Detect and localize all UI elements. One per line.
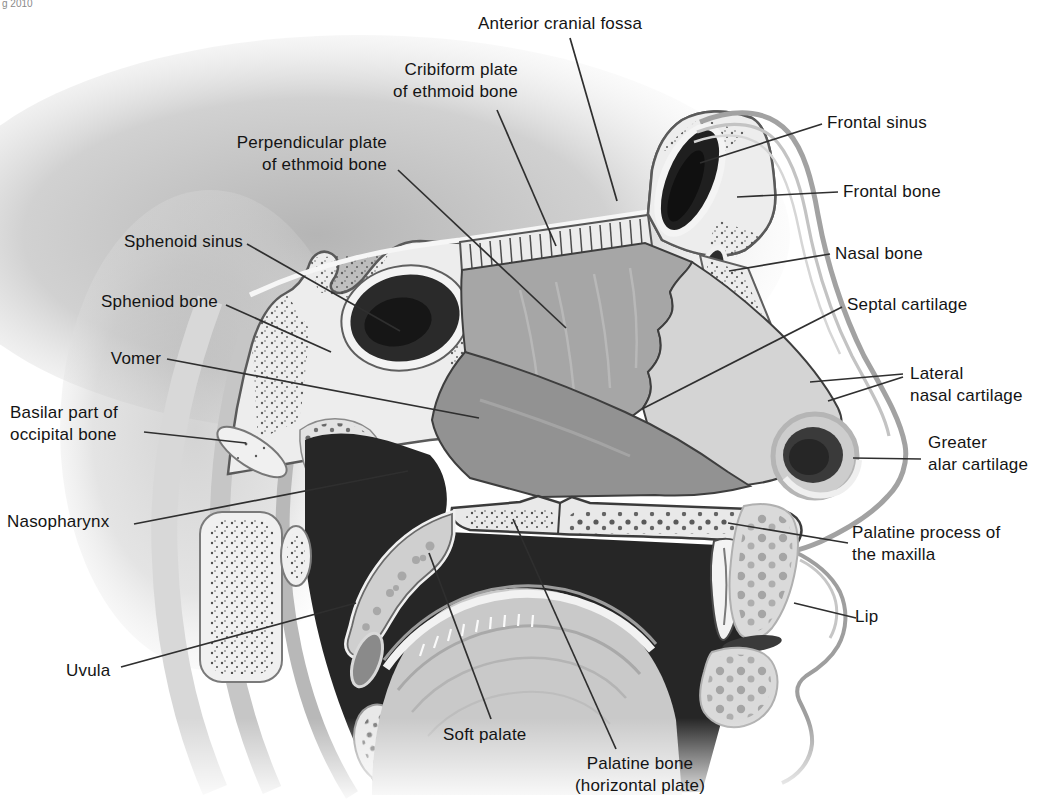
label-palatine-bone: Palatine bone (horizontal plate) — [562, 753, 718, 798]
label-vomer: Vomer — [96, 348, 161, 370]
label-frontal-bone: Frontal bone — [843, 181, 941, 203]
label-septal-cartilage: Septal cartilage — [847, 294, 967, 316]
label-sphenoid-sinus: Sphenoid sinus — [98, 231, 243, 253]
label-basilar-part: Basilar part of occipital bone — [10, 402, 118, 447]
label-palatine-process: Palatine process of the maxilla — [852, 522, 1000, 567]
corner-mark: g 2010 — [2, 0, 33, 9]
label-soft-palate: Soft palate — [443, 724, 526, 746]
label-lip: Lip — [855, 606, 878, 628]
label-spheniod-bone: Spheniod bone — [80, 291, 218, 313]
leader-greater-alar-cartilage — [853, 458, 921, 459]
nostril-alar-cartilage — [773, 414, 859, 498]
label-anterior-cranial-fossa: Anterior cranial fossa — [478, 13, 642, 35]
label-uvula: Uvula — [66, 660, 110, 682]
label-lateral-nasal-cartilage: Lateral nasal cartilage — [910, 363, 1023, 408]
label-perpendicular-plate: Perpendicular plate of ethmoid bone — [203, 132, 387, 177]
label-cribiform-plate: Cribiform plate of ethmoid bone — [368, 59, 518, 104]
label-nasopharynx: Nasopharynx — [7, 511, 109, 533]
label-frontal-sinus: Frontal sinus — [827, 112, 927, 134]
label-nasal-bone: Nasal bone — [835, 243, 923, 265]
figure-nasal-septum: g 2010 Anterior cranial fossa Cribiform … — [0, 0, 1048, 806]
label-greater-alar-cartilage: Greater alar cartilage — [928, 432, 1028, 477]
